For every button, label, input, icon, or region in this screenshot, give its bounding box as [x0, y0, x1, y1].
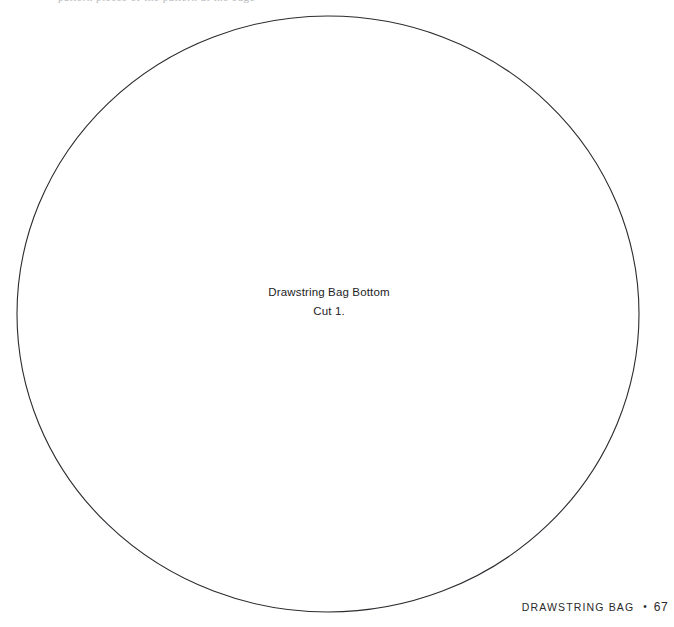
- pattern-label-title: Drawstring Bag Bottom: [0, 283, 658, 302]
- footer-chapter-title: DRAWSTRING BAG: [522, 601, 635, 613]
- footer-page-number: 67: [654, 600, 668, 614]
- footer-separator-dot-icon: •: [643, 601, 647, 612]
- pattern-label: Drawstring Bag Bottom Cut 1.: [0, 283, 658, 321]
- pattern-label-cut-count: Cut 1.: [0, 302, 658, 321]
- document-page: pattern pieces of the pattern at the edg…: [0, 0, 674, 627]
- page-footer: DRAWSTRING BAG • 67: [522, 600, 668, 614]
